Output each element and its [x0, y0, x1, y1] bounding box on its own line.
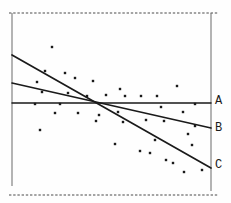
- scatter-point: [191, 144, 193, 146]
- scatter-point: [98, 114, 100, 116]
- scatter-point: [194, 103, 196, 105]
- scatter-figure: ABC: [0, 0, 231, 203]
- scatter-point: [139, 150, 141, 152]
- scatter-point: [39, 129, 41, 131]
- scatter-point: [41, 91, 43, 93]
- scatter-point: [95, 120, 97, 122]
- scatter-point: [165, 159, 167, 161]
- scatter-point: [92, 80, 94, 82]
- scatter-point: [201, 169, 203, 171]
- scatter-point: [172, 162, 174, 164]
- scatter-point: [140, 95, 142, 97]
- scatter-point: [34, 103, 36, 105]
- scatter-point: [154, 139, 156, 141]
- scatter-point: [74, 77, 76, 79]
- scatter-point: [86, 95, 88, 97]
- scatter-point: [183, 171, 185, 173]
- scatter-plot-svg: ABC: [0, 0, 231, 203]
- line-label-A: A: [215, 94, 223, 108]
- scatter-point: [163, 120, 165, 122]
- scatter-point: [122, 121, 124, 123]
- scatter-point: [124, 95, 126, 97]
- figure-background: [0, 0, 231, 203]
- scatter-point: [77, 112, 79, 114]
- scatter-point: [145, 119, 147, 121]
- scatter-point: [176, 85, 178, 87]
- line-label-B: B: [215, 121, 222, 135]
- scatter-point: [117, 111, 119, 113]
- scatter-point: [156, 95, 158, 97]
- scatter-point: [36, 81, 38, 83]
- scatter-point: [54, 112, 56, 114]
- scatter-point: [44, 70, 46, 72]
- scatter-point: [119, 88, 121, 90]
- scatter-point: [105, 94, 107, 96]
- scatter-point: [114, 143, 116, 145]
- scatter-point: [160, 106, 162, 108]
- scatter-point: [194, 125, 196, 127]
- scatter-point: [187, 133, 189, 135]
- scatter-point: [67, 92, 69, 94]
- scatter-point: [51, 46, 53, 48]
- line-label-C: C: [215, 158, 222, 172]
- scatter-point: [59, 103, 61, 105]
- scatter-point: [64, 72, 66, 74]
- scatter-point: [149, 152, 151, 154]
- scatter-point: [182, 111, 184, 113]
